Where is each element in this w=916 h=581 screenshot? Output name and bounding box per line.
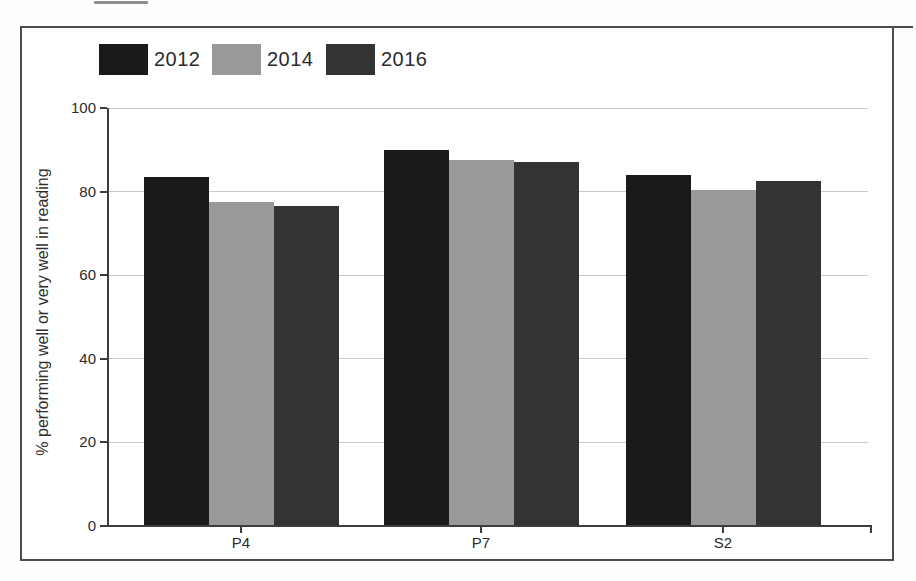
y-tick-60 xyxy=(100,274,107,276)
y-axis-line xyxy=(107,108,109,526)
legend-swatch-2014 xyxy=(212,44,261,75)
bar-2014-P7 xyxy=(449,160,514,526)
figure-frame-top-border xyxy=(20,26,913,28)
x-tick-label-S2: S2 xyxy=(691,534,755,552)
y-tick-label-80: 80 xyxy=(42,183,96,201)
y-tick-0 xyxy=(100,525,107,527)
legend-label-2014: 2014 xyxy=(267,44,314,75)
x-axis-line xyxy=(107,525,872,527)
legend-label-2016: 2016 xyxy=(381,44,428,75)
y-tick-20 xyxy=(100,441,107,443)
y-tick-label-20: 20 xyxy=(42,433,96,451)
y-tick-label-0: 0 xyxy=(42,517,96,535)
y-axis-title: % performing well or very well in readin… xyxy=(34,102,54,522)
legend-swatch-2012 xyxy=(99,44,148,75)
bar-2016-S2 xyxy=(756,181,821,526)
scan-artifact-smudge xyxy=(94,1,148,4)
x-tick-S2 xyxy=(722,527,724,533)
bar-2014-P4 xyxy=(209,202,274,526)
bar-2016-P7 xyxy=(514,162,579,526)
gridline-100 xyxy=(109,108,868,109)
y-tick-label-40: 40 xyxy=(42,350,96,368)
legend-label-2012: 2012 xyxy=(154,44,201,75)
x-axis-end-tick xyxy=(870,527,872,533)
x-tick-P4 xyxy=(240,527,242,533)
y-tick-40 xyxy=(100,358,107,360)
page: 201220142016 % performing well or very w… xyxy=(0,0,916,581)
bar-2012-P7 xyxy=(384,150,449,526)
y-tick-label-60: 60 xyxy=(42,266,96,284)
y-tick-100 xyxy=(100,107,107,109)
legend-swatch-2016 xyxy=(326,44,375,75)
bar-2014-S2 xyxy=(691,190,756,526)
x-tick-label-P7: P7 xyxy=(449,534,513,552)
x-tick-label-P4: P4 xyxy=(209,534,273,552)
x-tick-P7 xyxy=(480,527,482,533)
bar-2012-P4 xyxy=(144,177,209,526)
bar-2012-S2 xyxy=(626,175,691,526)
y-tick-80 xyxy=(100,191,107,193)
y-tick-label-100: 100 xyxy=(42,99,96,117)
bar-2016-P4 xyxy=(274,206,339,526)
